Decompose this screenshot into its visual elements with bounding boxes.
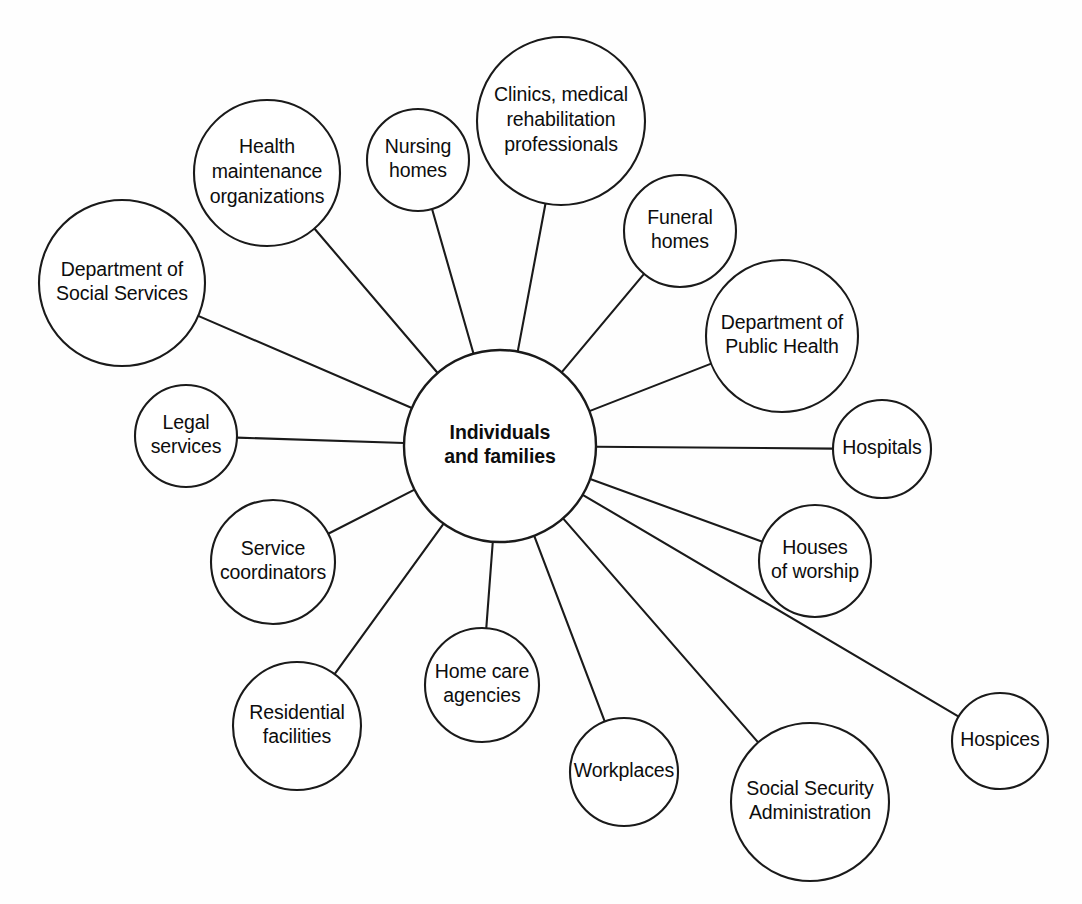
node-service-coordinators[interactable]: Servicecoordinators [211, 500, 335, 624]
edge-individuals-and-families-to-houses-of-worship [590, 479, 762, 542]
node-label-workplaces: Workplaces [574, 759, 675, 781]
node-nursing-homes[interactable]: Nursinghomes [367, 109, 469, 211]
node-home-care-agencies[interactable]: Home careagencies [425, 628, 539, 742]
edge-individuals-and-families-to-home-care-agencies [486, 542, 493, 628]
node-label-hospices: Hospices [960, 728, 1040, 750]
edge-individuals-and-families-to-nursing-homes [432, 209, 473, 354]
node-hospitals[interactable]: Hospitals [833, 400, 931, 498]
node-label-hospitals: Hospitals [842, 436, 922, 458]
node-department-of-social-services[interactable]: Department ofSocial Services [39, 200, 205, 366]
edge-individuals-and-families-to-clinics-medical-rehabilitation-professionals [518, 204, 546, 352]
edge-individuals-and-families-to-department-of-public-health [589, 364, 711, 411]
network-diagram-canvas: Department ofSocial ServicesHealthmainte… [0, 0, 1082, 904]
node-social-security-administration[interactable]: Social SecurityAdministration [731, 723, 889, 881]
node-clinics-medical-rehabilitation-professionals[interactable]: Clinics, medicalrehabilitationprofession… [477, 37, 645, 205]
edge-individuals-and-families-to-service-coordinators [328, 490, 414, 534]
edge-individuals-and-families-to-residential-facilities [335, 524, 444, 674]
node-residential-facilities[interactable]: Residentialfacilities [233, 662, 361, 790]
node-department-of-public-health[interactable]: Department ofPublic Health [706, 260, 858, 412]
node-workplaces[interactable]: Workplaces [570, 718, 678, 826]
edge-individuals-and-families-to-funeral-homes [562, 274, 644, 372]
node-label-clinics-medical-rehabilitation-professionals: Clinics, medicalrehabilitationprofession… [494, 84, 628, 155]
node-individuals-and-families[interactable]: Individualsand families [404, 350, 596, 542]
edge-individuals-and-families-to-hospitals [596, 447, 833, 449]
edge-individuals-and-families-to-social-security-administration [563, 518, 758, 742]
node-houses-of-worship[interactable]: Housesof worship [759, 505, 871, 617]
edge-individuals-and-families-to-health-maintenance-organizations [314, 229, 437, 373]
edge-individuals-and-families-to-legal-services [237, 438, 404, 443]
nodes-layer: Department ofSocial ServicesHealthmainte… [39, 37, 1048, 881]
network-diagram: Department ofSocial ServicesHealthmainte… [0, 0, 1082, 904]
node-funeral-homes[interactable]: Funeralhomes [624, 175, 736, 287]
edge-individuals-and-families-to-workplaces [534, 536, 605, 722]
node-hospices[interactable]: Hospices [952, 693, 1048, 789]
node-legal-services[interactable]: Legalservices [135, 385, 237, 487]
node-health-maintenance-organizations[interactable]: Healthmaintenanceorganizations [194, 100, 340, 246]
edge-individuals-and-families-to-department-of-social-services [198, 316, 412, 408]
